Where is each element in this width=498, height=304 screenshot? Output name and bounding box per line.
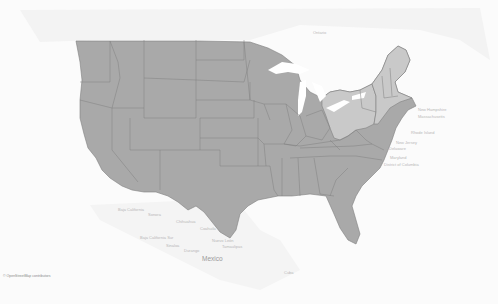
us-states-map[interactable] <box>0 0 498 304</box>
map-canvas[interactable]: Ontario New Hampshire Massachusetts Rhod… <box>0 0 498 304</box>
map-attribution[interactable]: © OpenStreetMap contributors <box>3 274 51 278</box>
